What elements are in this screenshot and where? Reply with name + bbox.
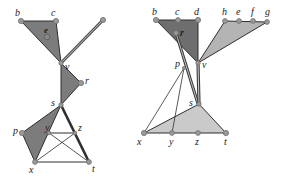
left-diagram: b c e v r s p y z x t [12, 7, 106, 175]
node-p [19, 130, 24, 135]
label-z: z [77, 122, 82, 133]
triangle-bdv [156, 20, 198, 63]
node-f [251, 19, 256, 24]
triangle-sxt [144, 104, 226, 133]
label-r: r [180, 27, 184, 38]
label-y: y [44, 122, 50, 133]
node-v [196, 61, 200, 65]
triangle-vrs [61, 63, 81, 105]
label-v: v [65, 61, 70, 72]
triangle-bcv [21, 21, 61, 63]
label-c: c [51, 7, 56, 18]
label-t: t [92, 163, 95, 174]
node-t [87, 160, 92, 165]
node-z [196, 131, 201, 136]
node-s [197, 102, 201, 106]
label-p: p [12, 125, 18, 136]
node-g [265, 20, 270, 25]
label-x: x [28, 164, 34, 175]
node-x [141, 130, 146, 135]
label-s: s [51, 97, 55, 108]
label-b: b [152, 6, 157, 17]
label-e: e [236, 6, 241, 17]
label-g: g [265, 6, 270, 17]
node-e [237, 19, 242, 24]
node-h [223, 19, 228, 24]
label-x: x [136, 136, 142, 147]
label-e: e [44, 25, 48, 35]
node-b [18, 18, 23, 23]
label-c: c [175, 6, 180, 17]
edge-v-top-inner [61, 20, 103, 63]
label-t: t [224, 136, 227, 147]
label-f: f [251, 6, 255, 17]
node-d [195, 17, 200, 22]
node-p [182, 66, 185, 69]
node-z [73, 131, 77, 135]
node-c [176, 18, 181, 23]
node-b [153, 17, 158, 22]
triangle-hgv [198, 21, 267, 63]
node-s [59, 103, 63, 107]
node-r [174, 31, 179, 36]
node-c [53, 18, 58, 23]
node-y [170, 131, 175, 136]
diagram-canvas: b c e v r s p y z x t [0, 0, 285, 179]
label-y: y [168, 136, 174, 147]
label-z: z [194, 136, 199, 147]
label-h: h [222, 6, 227, 17]
label-b: b [15, 7, 20, 18]
label-r: r [85, 75, 89, 86]
node-v [59, 61, 63, 65]
label-v: v [202, 59, 207, 70]
label-d: d [194, 6, 200, 17]
label-s: s [189, 97, 193, 108]
node-t [223, 130, 228, 135]
right-diagram: b c d h e f g r p v s x y z t [136, 6, 270, 147]
node-r [78, 80, 83, 85]
node-top-right [100, 17, 105, 22]
node-e-inner [44, 34, 50, 40]
label-p: p [174, 58, 180, 69]
